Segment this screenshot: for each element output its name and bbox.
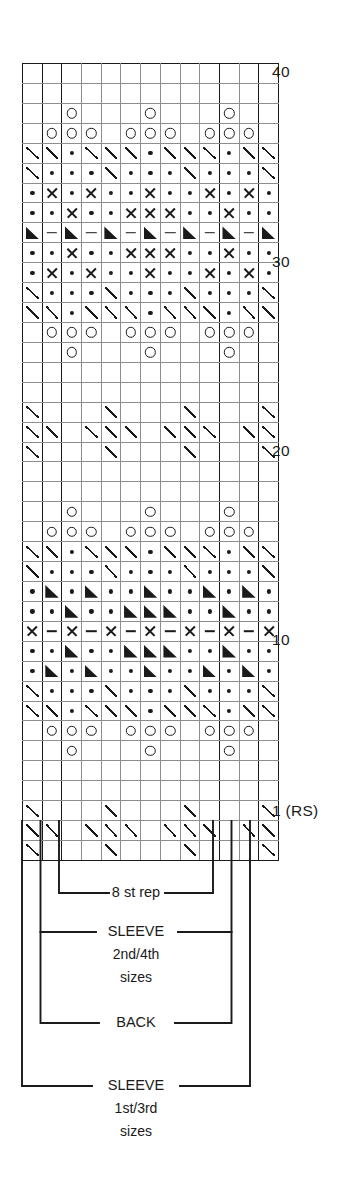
chart-cell: [180, 442, 200, 462]
purl-dot-icon: [141, 164, 160, 183]
filled-triangle-icon: [23, 223, 42, 242]
chart-cell: [23, 143, 43, 163]
chart-cell: [219, 462, 239, 482]
k2tog-decrease-slash-icon: [102, 283, 121, 302]
chart-cell: [160, 342, 180, 362]
chart-cell: [121, 661, 141, 681]
yarn-over-circle-icon: [62, 522, 81, 541]
purl-dot-icon: [43, 164, 62, 183]
chart-cell: [23, 581, 43, 601]
purl-dot-icon: [62, 184, 81, 203]
stitch-chart: [22, 63, 279, 861]
chart-cell: [200, 661, 220, 681]
chart-cell: [141, 601, 161, 621]
chart-cell: [82, 601, 102, 621]
chart-cell: [239, 502, 259, 522]
chart-cell: [42, 382, 62, 402]
chart-cell: [82, 482, 102, 502]
chart-cell: [23, 821, 43, 841]
k2tog-decrease-slash-icon: [240, 303, 259, 322]
chart-cell: [239, 163, 259, 183]
filled-triangle-icon: [161, 642, 180, 661]
chart-cell: [121, 681, 141, 701]
chart-cell: [62, 342, 82, 362]
yarn-over-circle-icon: [220, 323, 239, 342]
chart-cell: [62, 422, 82, 442]
chart-cell: [82, 721, 102, 741]
chart-row: [23, 83, 279, 103]
purl-dot-icon: [23, 203, 42, 222]
k2tog-decrease-slash-icon: [181, 283, 200, 302]
yarn-over-circle-icon: [200, 323, 219, 342]
chart-cell: [180, 801, 200, 821]
chart-cell: [180, 243, 200, 263]
chart-cell: [200, 522, 220, 542]
chart-cell: [180, 621, 200, 641]
purl-dot-icon: [62, 702, 81, 721]
chart-cell: [180, 462, 200, 482]
chart-cell: [160, 821, 180, 841]
filled-triangle-icon: [240, 662, 259, 681]
k2tog-decrease-slash-icon: [200, 303, 219, 322]
chart-cell: [239, 243, 259, 263]
yarn-over-circle-icon: [200, 721, 219, 740]
chart-cell: [259, 402, 279, 422]
chart-cell: [259, 701, 279, 721]
chart-cell: [121, 581, 141, 601]
k2tog-decrease-slash-icon: [259, 702, 278, 721]
chart-cell: [101, 821, 121, 841]
purl-dot-icon: [82, 203, 101, 222]
chart-cell: [180, 303, 200, 323]
chart-cell: [101, 203, 121, 223]
chart-cell: [219, 283, 239, 303]
cross-x-icon: [161, 203, 180, 222]
chart-cell: [42, 263, 62, 283]
purl-dot-icon: [62, 562, 81, 581]
purl-dot-icon: [82, 602, 101, 621]
chart-cell: [180, 342, 200, 362]
filled-triangle-icon: [82, 582, 101, 601]
chart-cell: [82, 183, 102, 203]
chart-cell: [121, 621, 141, 641]
chart-row: [23, 781, 279, 801]
chart-cell: [200, 482, 220, 502]
chart-cell: [42, 761, 62, 781]
chart-cell: [200, 761, 220, 781]
purl-dot-icon: [62, 164, 81, 183]
chart-cell: [101, 681, 121, 701]
chart-cell: [141, 502, 161, 522]
chart-cell: [259, 163, 279, 183]
filled-triangle-icon: [62, 642, 81, 661]
bracket-label-sleeve-1st3rd-sub: 1st/3rd: [115, 1100, 158, 1116]
chart-cell: [42, 840, 62, 860]
chart-cell: [239, 402, 259, 422]
chart-cell: [180, 761, 200, 781]
cross-x-icon: [62, 622, 81, 641]
chart-cell: [82, 263, 102, 283]
chart-cell: [239, 64, 259, 84]
chart-cell: [42, 781, 62, 801]
chart-cell: [239, 562, 259, 582]
yarn-over-circle-icon: [141, 741, 160, 760]
chart-cell: [239, 362, 259, 382]
chart-cell: [121, 123, 141, 143]
chart-cell: [200, 183, 220, 203]
bracket-label-sleeve-1st3rd-sub2: sizes: [120, 1123, 152, 1139]
purl-dot-icon: [82, 642, 101, 661]
chart-cell: [101, 562, 121, 582]
chart-cell: [200, 64, 220, 84]
chart-cell: [101, 701, 121, 721]
chart-cell: [239, 641, 259, 661]
chart-cell: [141, 721, 161, 741]
yarn-over-circle-icon: [141, 323, 160, 342]
chart-cell: [101, 362, 121, 382]
chart-cell: [200, 402, 220, 422]
chart-cell: [141, 183, 161, 203]
cross-x-icon: [141, 184, 160, 203]
k2tog-decrease-slash-icon: [181, 403, 200, 422]
chart-cell: [101, 462, 121, 482]
chart-cell: [239, 462, 259, 482]
chart-cell: [160, 761, 180, 781]
chart-cell: [259, 542, 279, 562]
chart-cell: [62, 223, 82, 243]
